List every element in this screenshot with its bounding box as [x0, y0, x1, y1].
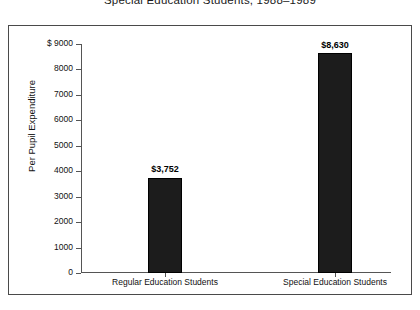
y-axis-title: Per Pupil Expenditure: [26, 66, 40, 186]
bar-value-label: $3,752: [133, 164, 197, 174]
y-tick-mark: [76, 248, 81, 249]
y-tick-label: 7000: [54, 89, 73, 99]
y-tick-mark: [76, 273, 81, 274]
plot-area: $ 9000 8000 7000 6000 5000 4000 3000 20: [81, 44, 391, 273]
y-tick-mark: [76, 222, 81, 223]
x-category-label-special: Special Education Students: [261, 277, 409, 287]
y-tick-group: 7000: [81, 95, 82, 96]
y-tick-group: 2000: [81, 222, 82, 223]
y-tick-group: 0: [81, 273, 82, 274]
y-tick-label: 2000: [54, 216, 73, 226]
y-tick-label: $ 9000: [47, 38, 73, 48]
y-tick-label: 6000: [54, 114, 73, 124]
y-tick-group: 1000: [81, 248, 82, 249]
bar-value-label: $8,630: [303, 40, 367, 50]
y-tick-group: 8000: [81, 69, 82, 70]
bar-regular-education-students[interactable]: [148, 178, 182, 274]
y-tick-label: 8000: [54, 63, 73, 73]
x-category-label-regular: Regular Education Students: [91, 277, 239, 287]
page-title: Special Education Students, 1988–1989: [0, 0, 420, 9]
y-tick-label: 0: [68, 267, 73, 277]
y-tick-label: 3000: [54, 191, 73, 201]
y-tick-group: 5000: [81, 146, 82, 147]
bar-special-education-students[interactable]: [318, 53, 352, 273]
y-tick-group: 4000: [81, 171, 82, 172]
y-tick-label: 5000: [54, 140, 73, 150]
y-tick-group: 3000: [81, 197, 82, 198]
y-tick-mark: [76, 69, 81, 70]
y-tick-mark: [76, 95, 81, 96]
y-axis-line: [81, 44, 82, 273]
y-tick-mark: [76, 44, 81, 45]
y-tick-group: $ 9000: [81, 44, 82, 45]
chart-frame: Per Pupil Expenditure $ 9000 8000 7000 6…: [8, 25, 412, 295]
y-tick-mark: [76, 197, 81, 198]
y-tick-mark: [76, 171, 81, 172]
y-tick-mark: [76, 120, 81, 121]
y-tick-group: 6000: [81, 120, 82, 121]
y-tick-label: 1000: [54, 242, 73, 252]
y-tick-mark: [76, 146, 81, 147]
y-tick-label: 4000: [54, 165, 73, 175]
